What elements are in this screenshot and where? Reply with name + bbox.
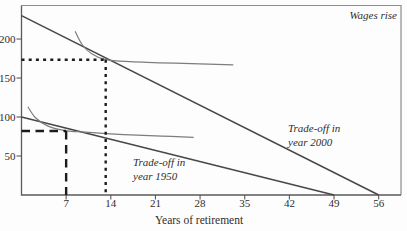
tradeoff-2000-line bbox=[22, 16, 379, 195]
x-tick-label-28: 28 bbox=[186, 197, 214, 210]
tradeoff-2000-label-line1: Trade-off in bbox=[288, 121, 340, 135]
axes bbox=[22, 6, 402, 196]
tradeoff-1950-label-line1: Trade-off in bbox=[133, 155, 185, 169]
tradeoff-2000-label: Trade-off in year 2000 bbox=[288, 121, 340, 149]
tradeoff-1950-label-line2: year 1950 bbox=[133, 169, 185, 183]
indifference-curve-2000 bbox=[75, 31, 233, 65]
wages-rise-annotation: Wages rise bbox=[349, 8, 397, 22]
retirement-wage-tradeoff-figure: Wages rise Trade-off in year 2000 Trade-… bbox=[0, 0, 407, 231]
x-axis-title: Years of retirement bbox=[139, 214, 259, 226]
tradeoff-2000-label-line2: year 2000 bbox=[288, 135, 340, 149]
y-tick-label-100: 100 bbox=[0, 111, 16, 124]
x-tick-label-14: 14 bbox=[97, 197, 125, 210]
x-tick-label-42: 42 bbox=[275, 197, 303, 210]
x-tick-label-7: 7 bbox=[52, 197, 80, 210]
tradeoff-1950-label: Trade-off in year 1950 bbox=[133, 155, 185, 183]
plot-frame bbox=[22, 6, 402, 196]
x-tick-label-56: 56 bbox=[365, 197, 393, 210]
x-tick-label-35: 35 bbox=[231, 197, 259, 210]
y-tick-label-150: 150 bbox=[0, 72, 16, 85]
indifference-curve-1950 bbox=[28, 107, 194, 137]
x-tick-label-49: 49 bbox=[320, 197, 348, 210]
y-tick-label-200: 200 bbox=[0, 33, 16, 46]
x-tick-label-21: 21 bbox=[141, 197, 169, 210]
y-tick-label-50: 50 bbox=[0, 150, 16, 163]
